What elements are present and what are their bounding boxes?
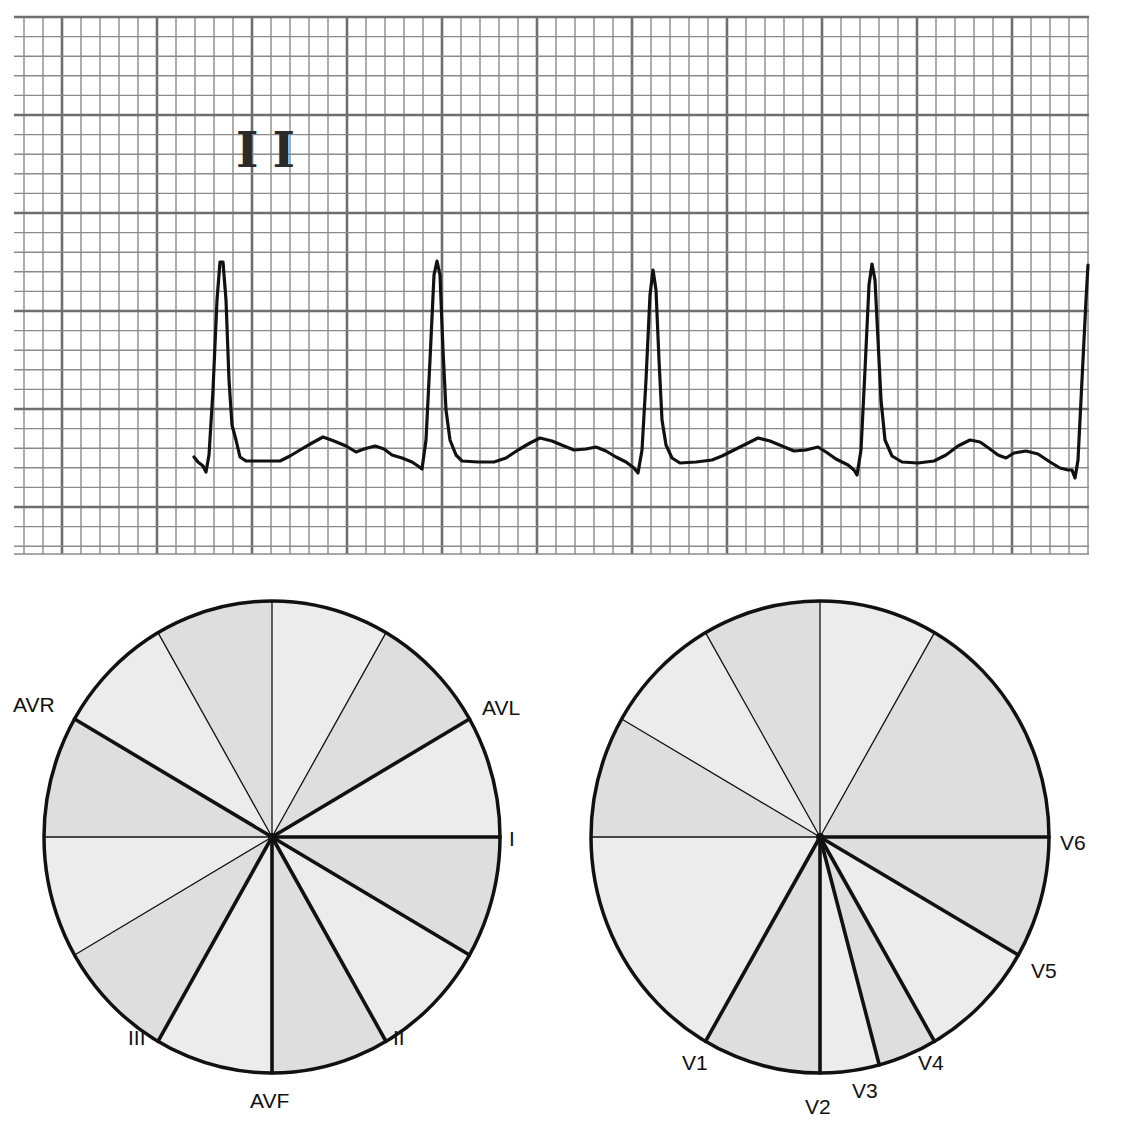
lead-label-v5: V5 bbox=[1031, 959, 1057, 982]
chest-leads-diagram: V1V2V3V4V5V6 bbox=[560, 580, 1143, 1126]
lead-label-iii: III bbox=[128, 1026, 146, 1049]
ecg-strip: II bbox=[0, 0, 1143, 580]
ecg-grid bbox=[14, 16, 1089, 554]
lead-label-ii: II bbox=[393, 1026, 405, 1049]
limb-leads-diagram: AVRAVLIIIIIIAVF bbox=[0, 580, 560, 1126]
center-point bbox=[268, 833, 276, 841]
lead-label-avr: AVR bbox=[13, 693, 55, 716]
lead-label-i: I bbox=[509, 827, 515, 850]
lead-label-avf: AVF bbox=[250, 1089, 289, 1112]
lead-label-v3: V3 bbox=[852, 1079, 878, 1102]
center-point bbox=[816, 833, 824, 841]
lead-label: II bbox=[236, 122, 309, 178]
lead-label-v6: V6 bbox=[1060, 831, 1086, 854]
lead-label-avl: AVL bbox=[482, 696, 520, 719]
lead-label-v1: V1 bbox=[682, 1051, 708, 1074]
lead-label-v2: V2 bbox=[805, 1095, 831, 1118]
lead-label-v4: V4 bbox=[918, 1051, 944, 1074]
